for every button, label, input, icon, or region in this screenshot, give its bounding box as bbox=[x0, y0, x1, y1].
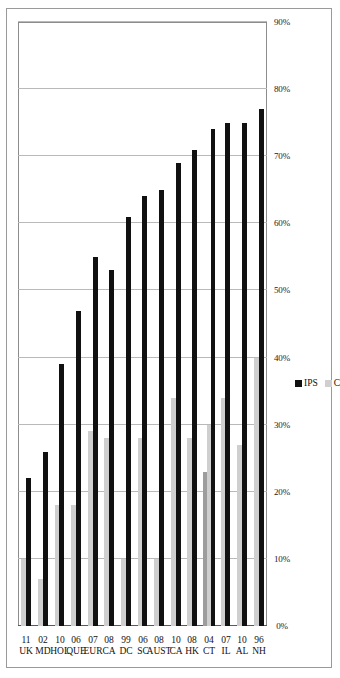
bar-group bbox=[134, 22, 151, 626]
bar-ips-al-10 bbox=[242, 123, 247, 626]
x-tick-label: 0% bbox=[268, 621, 296, 631]
x-tick-label: 50% bbox=[268, 285, 296, 295]
x-tick-label: 70% bbox=[268, 151, 296, 161]
bar-group bbox=[201, 22, 218, 626]
x-tick-label: 10% bbox=[268, 554, 296, 564]
bar-ips-nh-96 bbox=[259, 109, 264, 626]
bar-ips-il-07 bbox=[225, 123, 230, 626]
bar-group bbox=[217, 22, 234, 626]
x-tick-label: 20% bbox=[268, 487, 296, 497]
bar-group bbox=[18, 22, 35, 626]
x-tick-label: 90% bbox=[268, 17, 296, 27]
bar-group bbox=[250, 22, 267, 626]
legend-label: IPS bbox=[304, 378, 318, 388]
bar-group bbox=[68, 22, 85, 626]
bar-ips-ct-04 bbox=[211, 129, 215, 626]
legend-entry-control: Control bbox=[325, 378, 340, 388]
x-tick-label: 80% bbox=[268, 84, 296, 94]
bar-group bbox=[101, 22, 118, 626]
bar-ips-sc-06 bbox=[142, 197, 147, 627]
bar-ips-eur-07 bbox=[93, 257, 98, 626]
bar-ips-ca-10 bbox=[176, 163, 181, 626]
bar-ips-hk-08 bbox=[192, 150, 197, 626]
chart-rotation-wrapper: 0%10%20%30%40%50%60%70%80%90% 96NH10AL07… bbox=[8, 10, 330, 666]
bar-group bbox=[118, 22, 135, 626]
bar-ips-md-02 bbox=[43, 452, 48, 626]
bar-chart: 0%10%20%30%40%50%60%70%80%90% 96NH10AL07… bbox=[8, 10, 330, 666]
x-tick-label: 30% bbox=[268, 420, 296, 430]
bar-ips-uk-11 bbox=[26, 478, 31, 626]
bar-ips-hol-10 bbox=[59, 364, 64, 626]
legend-swatch-icon bbox=[325, 380, 332, 387]
bar-ips-dc-99 bbox=[126, 217, 131, 626]
figure-frame: 0%10%20%30%40%50%60%70%80%90% 96NH10AL07… bbox=[6, 8, 332, 668]
x-tick-label: 60% bbox=[268, 218, 296, 228]
legend-swatch-icon bbox=[295, 380, 302, 387]
x-tick-label: 40% bbox=[268, 353, 296, 363]
category-label-uk-11: 11UK bbox=[6, 635, 46, 657]
legend-label: Control bbox=[334, 378, 340, 388]
bar-group bbox=[234, 22, 251, 626]
bar-group bbox=[167, 22, 184, 626]
chart-legend: IPSControlControl 2 bbox=[295, 378, 340, 388]
bar-group bbox=[84, 22, 101, 626]
bar-group bbox=[184, 22, 201, 626]
bar-ips-que-06 bbox=[76, 311, 81, 626]
bar-group bbox=[51, 22, 68, 626]
legend-entry-ips: IPS bbox=[295, 378, 318, 388]
bar-ips-aust-08 bbox=[159, 190, 164, 626]
bar-group bbox=[35, 22, 52, 626]
bar-group bbox=[151, 22, 168, 626]
bar-ips-ca-08 bbox=[109, 270, 114, 626]
